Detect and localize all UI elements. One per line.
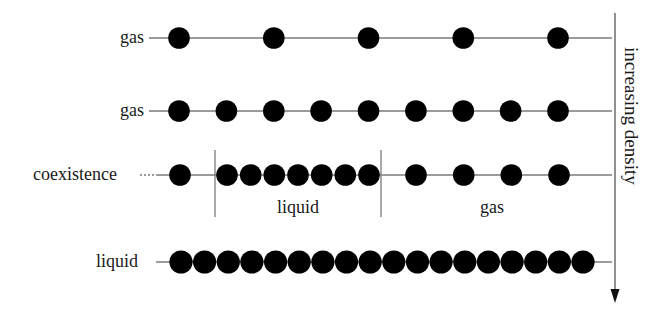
particle xyxy=(240,164,262,186)
particle xyxy=(264,250,287,273)
particle xyxy=(501,164,523,186)
particle xyxy=(335,164,357,186)
particle xyxy=(500,250,523,273)
particle xyxy=(264,164,286,186)
region-label-liquid: liquid xyxy=(277,198,319,216)
region-label-gas: gas xyxy=(480,198,504,216)
axis-label-increasing-density: increasing density xyxy=(622,47,641,185)
particle xyxy=(217,250,240,273)
particle xyxy=(310,100,332,122)
particle xyxy=(193,250,216,273)
rows-layer xyxy=(140,27,612,273)
particle xyxy=(406,250,429,273)
row-label-gas-sparse: gas xyxy=(120,28,144,46)
particle xyxy=(548,250,571,273)
particle xyxy=(547,100,569,122)
particle xyxy=(263,100,285,122)
row-label-gas-dense: gas xyxy=(120,101,144,119)
particle xyxy=(571,250,594,273)
particle xyxy=(477,250,500,273)
particle xyxy=(524,250,547,273)
particle xyxy=(358,27,380,49)
density-arrow xyxy=(611,13,620,303)
particle xyxy=(430,250,453,273)
particle xyxy=(311,250,334,273)
particle xyxy=(216,100,238,122)
particle xyxy=(168,100,190,122)
particle xyxy=(453,100,475,122)
particle xyxy=(405,100,427,122)
particle xyxy=(548,164,570,186)
particle xyxy=(453,27,475,49)
particle xyxy=(453,164,475,186)
particle xyxy=(453,250,476,273)
particle xyxy=(169,250,192,273)
particle xyxy=(311,164,333,186)
particle xyxy=(358,100,380,122)
particle xyxy=(240,250,263,273)
particle xyxy=(216,164,238,186)
particle xyxy=(168,27,190,49)
row-label-coexistence: coexistence xyxy=(33,165,117,183)
particle xyxy=(405,164,427,186)
particle xyxy=(358,164,380,186)
particle xyxy=(335,250,358,273)
particle xyxy=(169,164,191,186)
particle xyxy=(359,250,382,273)
row-label-liquid: liquid xyxy=(96,252,138,270)
particle xyxy=(287,164,309,186)
particle xyxy=(263,27,285,49)
particle xyxy=(288,250,311,273)
arrowhead-down-icon xyxy=(611,289,620,303)
particle xyxy=(500,100,522,122)
particle xyxy=(382,250,405,273)
particle xyxy=(547,27,569,49)
